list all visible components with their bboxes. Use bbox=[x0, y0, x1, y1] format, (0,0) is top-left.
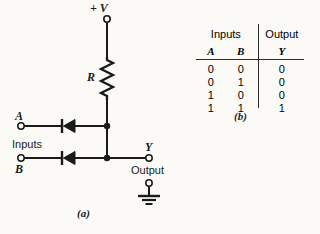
supply-terminal-icon bbox=[104, 16, 110, 22]
junction-node-a bbox=[104, 123, 110, 129]
output-terminal-icon bbox=[146, 155, 152, 161]
cell-a: 1 bbox=[196, 102, 226, 115]
header-output: Output bbox=[256, 28, 304, 40]
caption-a: (a) bbox=[77, 208, 90, 219]
diode-b-icon bbox=[64, 152, 76, 165]
table-row: 1 0 0 bbox=[196, 89, 304, 102]
resistor-label: R bbox=[87, 71, 95, 83]
table-row: 0 1 0 bbox=[196, 76, 304, 89]
table-row: 0 0 0 bbox=[196, 63, 304, 76]
table-row: 1 1 1 bbox=[196, 102, 304, 115]
column-header-a: A bbox=[196, 45, 226, 57]
output-node-label: Y bbox=[145, 141, 152, 153]
caption-b: (b) bbox=[234, 111, 247, 122]
table-column-header-row: A B Y bbox=[196, 40, 304, 57]
cell-a: 0 bbox=[196, 76, 226, 89]
output-label: Output bbox=[131, 165, 164, 176]
cell-y: 0 bbox=[256, 76, 304, 89]
resistor-icon bbox=[101, 57, 113, 100]
header-inputs: Inputs bbox=[196, 28, 256, 40]
cell-y: 1 bbox=[256, 102, 304, 115]
column-header-b: B bbox=[226, 45, 256, 57]
figure-container: + V R A Inputs B Y Output (a) Inputs Out… bbox=[0, 0, 320, 234]
input-a-label: A bbox=[15, 110, 23, 122]
input-b-terminal-icon bbox=[18, 155, 24, 161]
input-b-label: B bbox=[15, 163, 23, 175]
cell-y: 0 bbox=[256, 63, 304, 76]
column-header-y: Y bbox=[256, 45, 304, 57]
input-a-terminal-icon bbox=[18, 123, 24, 129]
cell-y: 0 bbox=[256, 89, 304, 102]
cell-b: 0 bbox=[226, 89, 256, 102]
cell-b: 1 bbox=[226, 76, 256, 89]
table-group-header-row: Inputs Output bbox=[196, 24, 304, 40]
supply-label: + V bbox=[90, 2, 108, 14]
truth-table: Inputs Output A B Y 0 0 0 0 1 0 1 0 0 1 … bbox=[196, 24, 304, 115]
table-horizontal-rule bbox=[196, 59, 304, 60]
inputs-label: Inputs bbox=[12, 139, 42, 150]
diode-a-icon bbox=[64, 120, 76, 133]
cell-b: 0 bbox=[226, 63, 256, 76]
cell-a: 1 bbox=[196, 89, 226, 102]
cell-a: 0 bbox=[196, 63, 226, 76]
ground-terminal-icon bbox=[146, 180, 152, 186]
